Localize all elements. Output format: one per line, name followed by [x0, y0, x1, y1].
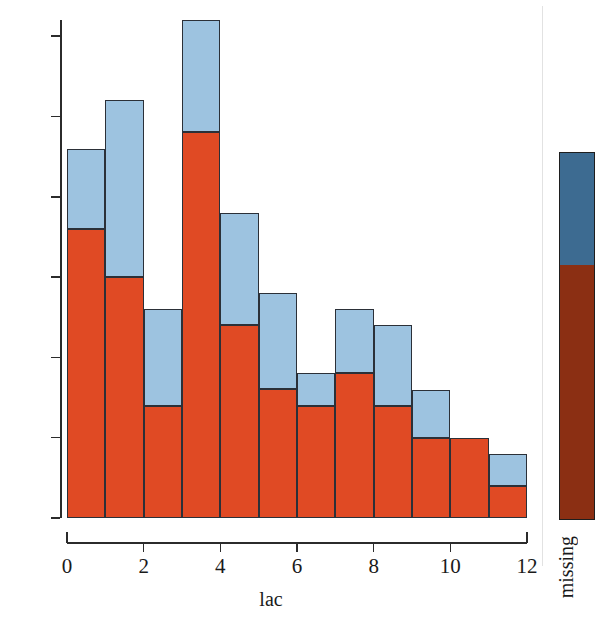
y-axis-tick: [51, 196, 60, 198]
bar-segment-present: [259, 389, 297, 518]
bar-segment-present: [144, 406, 182, 518]
legend-title: missing: [556, 536, 576, 598]
x-axis-tick-label: 10: [440, 556, 461, 577]
bar-segment-present: [374, 406, 412, 518]
bar-segment-missing: [182, 20, 220, 132]
x-axis-tick: [220, 542, 222, 552]
bar-segment-missing: [220, 213, 258, 325]
legend-colorbar: [559, 152, 595, 520]
bar-segment-missing: [67, 149, 105, 229]
y-axis-line: [60, 20, 62, 518]
bar-segment-present: [105, 277, 143, 518]
bar-segment-present: [297, 406, 335, 518]
bar-segment-missing: [259, 293, 297, 389]
x-axis-tick-label: 0: [62, 556, 73, 577]
bar-segment-missing: [105, 100, 143, 277]
y-axis-tick: [51, 35, 60, 37]
legend-segment-present: [560, 265, 594, 519]
x-axis-tick: [526, 532, 528, 543]
x-axis-tick-label: 4: [215, 556, 226, 577]
x-axis-tick: [450, 542, 452, 552]
bar-segment-missing: [144, 309, 182, 405]
bar-segment-missing: [489, 454, 527, 486]
y-axis-tick: [51, 357, 60, 359]
bar-segment-present: [220, 325, 258, 518]
x-axis-title: lac: [0, 589, 542, 609]
bar-segment-present: [182, 132, 220, 518]
plot-area: [67, 20, 527, 518]
plot-panel: 051015202530 024681012 lac: [0, 0, 542, 617]
x-axis-tick: [373, 542, 375, 552]
y-axis-tick: [51, 437, 60, 439]
legend-panel: missing: [542, 0, 593, 617]
bar-segment-missing: [297, 373, 335, 405]
bar-segment-present: [489, 486, 527, 518]
bar-segment-present: [335, 373, 373, 518]
bar-segment-present: [67, 229, 105, 518]
legend-segment-missing: [560, 153, 594, 265]
y-axis-tick: [51, 276, 60, 278]
bar-segment-present: [450, 438, 488, 518]
y-axis-tick: [51, 116, 60, 118]
x-axis-tick: [66, 532, 68, 543]
x-axis-tick: [296, 542, 298, 552]
y-axis-tick: [51, 517, 60, 519]
bar-segment-missing: [412, 390, 450, 438]
bar-segment-present: [412, 438, 450, 518]
bar-segment-missing: [335, 309, 373, 373]
x-axis-tick-label: 8: [368, 556, 379, 577]
x-axis-tick-label: 2: [138, 556, 149, 577]
bar-segment-missing: [374, 325, 412, 405]
x-axis-tick: [143, 542, 145, 552]
x-axis-tick-label: 6: [292, 556, 303, 577]
x-axis-tick-label: 12: [517, 556, 538, 577]
